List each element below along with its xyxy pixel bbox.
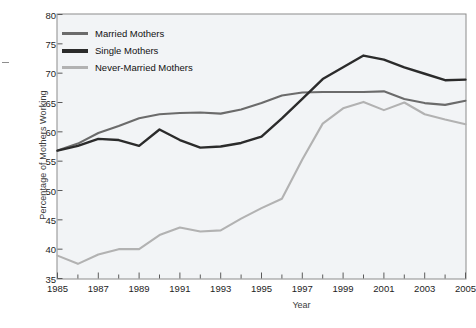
y-tick-label: 75 xyxy=(26,38,56,49)
x-tick-label: 1999 xyxy=(333,283,354,294)
x-tick-label: 1987 xyxy=(88,283,109,294)
legend-item-married: Married Mothers xyxy=(62,25,193,42)
y-tick-label: 70 xyxy=(26,68,56,79)
y-tick-label: 55 xyxy=(26,156,56,167)
x-tick-label: 1995 xyxy=(251,283,272,294)
y-tick-label: 65 xyxy=(26,97,56,108)
y-tick-label: 45 xyxy=(26,214,56,225)
legend-label-married: Married Mothers xyxy=(95,28,164,39)
legend-item-single: Single Mothers xyxy=(62,42,193,59)
legend-swatch-never-married xyxy=(62,66,88,69)
y-tick-label: 50 xyxy=(26,185,56,196)
x-tick-label: 2001 xyxy=(373,283,394,294)
y-tick-label: 80 xyxy=(26,9,56,20)
x-tick-label: 1991 xyxy=(169,283,190,294)
x-tick-label: 1993 xyxy=(210,283,231,294)
x-tick-label: 1997 xyxy=(292,283,313,294)
legend-label-never-married: Never-Married Mothers xyxy=(95,62,193,73)
legend-swatch-married xyxy=(62,32,88,35)
chart-legend: Married Mothers Single Mothers Never-Mar… xyxy=(62,25,193,76)
x-tick-label: 1985 xyxy=(47,283,68,294)
x-tick-label: 2003 xyxy=(414,283,435,294)
legend-item-never-married: Never-Married Mothers xyxy=(62,59,193,76)
x-tick-label: 2005 xyxy=(455,283,476,294)
y-tick-label: 40 xyxy=(26,244,56,255)
legend-swatch-single xyxy=(62,49,88,53)
legend-label-single: Single Mothers xyxy=(95,45,158,56)
x-tick-label: 1989 xyxy=(129,283,150,294)
y-tick-label: 60 xyxy=(26,126,56,137)
